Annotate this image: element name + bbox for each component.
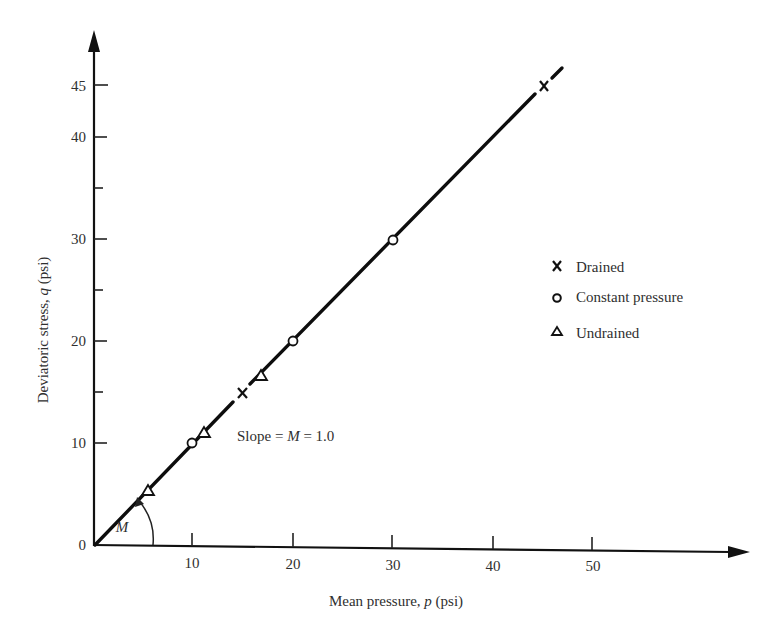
chart-canvas: 0 10 20 30 40 45 10 20 30 40 50 Mean pre… <box>0 0 777 643</box>
x-tick-label-50: 50 <box>586 558 601 574</box>
critical-state-line <box>95 68 562 545</box>
x-axis-arrow-icon <box>728 546 750 558</box>
triangle-marker-icon <box>552 327 562 335</box>
legend-label-undrained: Undrained <box>576 325 640 341</box>
legend-item-constant-pressure: Constant pressure <box>553 289 683 305</box>
y-ticks <box>94 85 108 443</box>
x-axis-title: Mean pressure, p (psi) <box>329 593 463 610</box>
y-tick-label-0: 0 <box>79 537 87 553</box>
x-tick-label-30: 30 <box>386 557 401 573</box>
y-axis-arrow-icon <box>88 30 100 52</box>
x-marker-icon <box>553 261 561 271</box>
circle-marker-icon <box>289 337 298 346</box>
x-tick-label-20: 20 <box>286 556 301 572</box>
y-axis <box>88 30 100 546</box>
x-marker-icon <box>238 388 247 398</box>
x-tick-labels: 10 20 30 40 50 <box>185 555 601 574</box>
legend-item-undrained: Undrained <box>552 325 640 341</box>
angle-label: M <box>115 519 130 535</box>
y-tick-label-40: 40 <box>71 129 86 145</box>
y-tick-label-10: 10 <box>71 435 86 451</box>
y-tick-label-20: 20 <box>71 333 86 349</box>
y-tick-label-45: 45 <box>71 78 86 94</box>
x-tick-label-40: 40 <box>486 558 501 574</box>
y-tick-labels: 0 10 20 30 40 45 <box>71 78 86 553</box>
legend-label-constant-pressure: Constant pressure <box>576 289 683 305</box>
x-marker-icon <box>540 81 548 91</box>
legend: Drained Constant pressure Undrained <box>552 259 683 341</box>
legend-item-drained: Drained <box>553 259 625 275</box>
circle-marker-icon <box>188 439 197 448</box>
y-axis-title: Deviatoric stress, q (psi) <box>35 257 52 404</box>
circle-marker-icon <box>553 294 561 302</box>
y-tick-label-30: 30 <box>71 231 86 247</box>
circle-marker-icon <box>389 236 398 245</box>
legend-label-drained: Drained <box>576 259 625 275</box>
slope-annotation: Slope = M = 1.0 <box>237 428 334 444</box>
x-tick-label-10: 10 <box>185 555 200 571</box>
